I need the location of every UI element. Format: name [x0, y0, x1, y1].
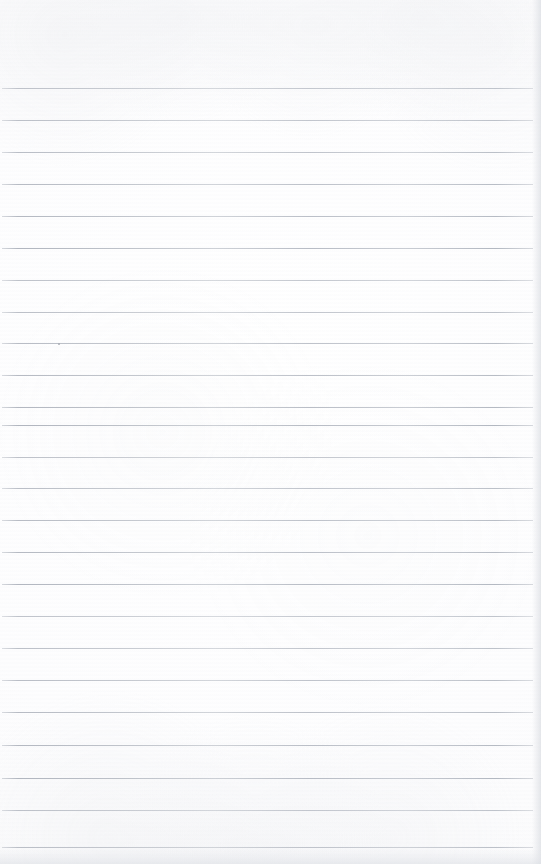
rule-line — [2, 680, 533, 681]
rule-line — [2, 280, 533, 281]
rule-line — [2, 712, 533, 713]
rule-line — [2, 552, 533, 553]
rule-line — [2, 648, 533, 649]
rule-line — [2, 520, 533, 521]
rule-line — [2, 810, 533, 811]
rule-line — [2, 88, 533, 89]
rule-line — [2, 778, 533, 779]
rule-line — [2, 847, 533, 848]
rule-line — [2, 120, 533, 121]
rule-line — [2, 312, 533, 313]
rule-line — [2, 407, 533, 408]
rule-line — [2, 457, 533, 458]
rule-line — [2, 616, 533, 617]
scanned-page — [0, 0, 541, 864]
rule-line — [2, 216, 533, 217]
rule-line — [2, 248, 533, 249]
rule-line — [2, 425, 533, 426]
rule-line — [2, 584, 533, 585]
rule-line — [2, 184, 533, 185]
rule-line — [2, 375, 533, 376]
rule-line — [2, 152, 533, 153]
rule-line — [2, 343, 533, 344]
rule-line — [2, 488, 533, 489]
ruled-lines-group — [0, 0, 541, 864]
ink-speck — [58, 343, 60, 345]
rule-line — [2, 745, 533, 746]
